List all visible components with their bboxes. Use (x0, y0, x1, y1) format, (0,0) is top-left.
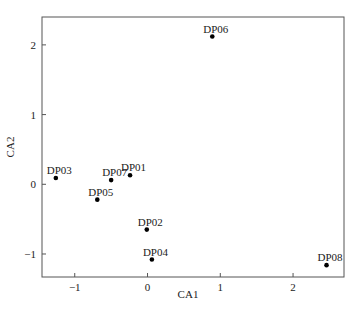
data-point-dp03: DP03 (47, 164, 73, 180)
point-marker (210, 34, 215, 39)
point-marker (150, 257, 155, 262)
point-label: DP04 (143, 246, 169, 258)
data-point-dp04: DP04 (143, 246, 169, 262)
y-tick-label: 2 (31, 39, 37, 51)
x-tick-label: 0 (145, 281, 151, 293)
data-point-dp07: DP07 (102, 166, 128, 182)
point-label: DP02 (138, 216, 163, 228)
x-tick-label: 2 (290, 281, 296, 293)
data-points: DP01DP02DP03DP04DP05DP06DP07DP08 (47, 23, 343, 268)
data-point-dp05: DP05 (88, 186, 114, 202)
scatter-chart: −1012 −1012 DP01DP02DP03DP04DP05DP06DP07… (0, 0, 364, 316)
x-axis-title: CA1 (178, 288, 199, 300)
point-label: DP05 (88, 186, 114, 198)
point-label: DP06 (203, 23, 229, 35)
y-tick-label: 0 (31, 178, 37, 190)
data-point-dp08: DP08 (318, 251, 344, 267)
y-axis-ticks: −1012 (24, 39, 46, 260)
point-label: DP08 (318, 251, 344, 263)
point-marker (54, 176, 59, 181)
y-axis-title: CA2 (4, 137, 16, 158)
point-marker (95, 197, 100, 202)
plot-frame (42, 17, 344, 277)
point-marker (109, 178, 114, 183)
x-tick-label: −1 (69, 281, 81, 293)
data-point-dp02: DP02 (138, 216, 163, 232)
data-point-dp06: DP06 (203, 23, 229, 39)
point-marker (324, 263, 329, 268)
y-tick-label: 1 (31, 109, 37, 121)
y-tick-label: −1 (24, 248, 36, 260)
point-marker (128, 173, 133, 178)
point-label: DP07 (102, 166, 128, 178)
point-marker (144, 227, 149, 232)
x-tick-label: 1 (218, 281, 224, 293)
point-label: DP03 (47, 164, 73, 176)
